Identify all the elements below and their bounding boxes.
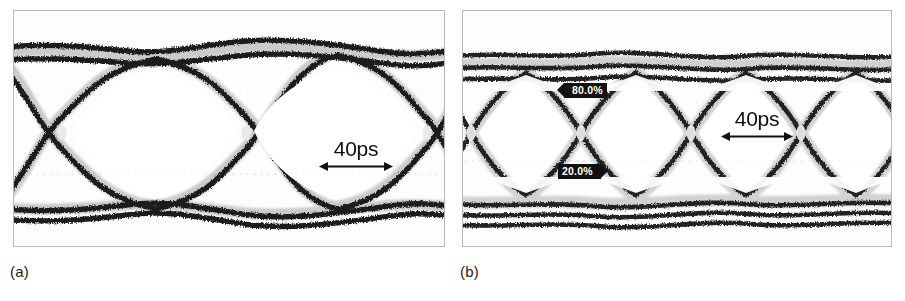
marker-pointer-icon <box>557 83 564 97</box>
marker-label: 20.0% <box>562 166 593 177</box>
subfigure-caption-a: (a) <box>10 263 29 280</box>
measurement-marker-20-percent: 20.0% <box>558 164 601 179</box>
eye-diagram-a-canvas <box>14 11 444 246</box>
measurement-marker-80-percent: 80.0% <box>564 83 607 98</box>
subfigure-caption-b: (b) <box>460 263 479 280</box>
eye-diagram-panel-a: 40ps <box>13 10 445 247</box>
marker-label: 80.0% <box>572 85 603 96</box>
marker-pointer-icon <box>601 164 608 178</box>
eye-diagram-b-canvas <box>463 11 891 246</box>
figure-root: 40ps (a) <box>0 0 905 301</box>
eye-diagram-panel-b: 40ps 80.0% 20.0% <box>462 10 892 247</box>
